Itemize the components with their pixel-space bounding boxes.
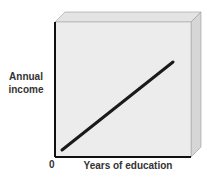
plot-area [55, 22, 191, 157]
origin-label: 0 [49, 159, 55, 170]
box-right-face [191, 12, 201, 157]
y-axis-label-line2: income [4, 83, 48, 96]
y-axis-label-line1: Annual [4, 70, 48, 83]
box-top-face [55, 12, 201, 22]
x-axis-label: Years of education [78, 160, 178, 171]
y-axis-label: Annual income [4, 70, 48, 96]
